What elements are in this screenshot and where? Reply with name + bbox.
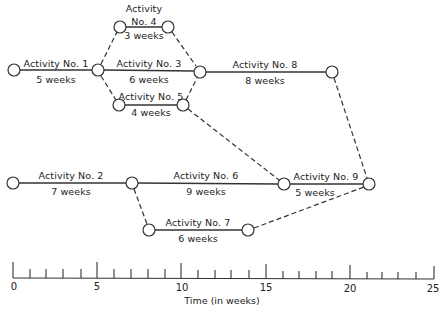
axis-title: Time (in weeks) xyxy=(184,295,259,306)
dependency-1-5 xyxy=(101,76,116,100)
activity-8-duration: 8 weeks xyxy=(245,75,285,86)
axis-tick-20: 20 xyxy=(344,283,357,294)
diagram-graphics xyxy=(0,0,442,311)
activity-1-duration: 5 weeks xyxy=(36,74,76,85)
activity-5-name: Activity No. 5 xyxy=(119,91,184,102)
node-end-1 xyxy=(92,64,104,76)
axis-tick-10: 10 xyxy=(176,282,189,293)
activity-1-name: Activity No. 1 xyxy=(24,58,89,69)
activity-5-duration: 4 weeks xyxy=(131,107,171,118)
activity-4-name-line2: No. 4 xyxy=(131,16,156,27)
axis-tick-15: 15 xyxy=(260,282,273,293)
dependency-8-9 xyxy=(334,78,367,178)
time-axis xyxy=(13,262,434,279)
activity-2-duration: 7 weeks xyxy=(51,186,91,197)
node-end-9 xyxy=(363,178,375,190)
node-end-2 xyxy=(126,177,138,189)
activity-8-name: Activity No. 8 xyxy=(233,59,298,70)
activity-3-duration: 6 weeks xyxy=(129,74,169,85)
axis-tick-5: 5 xyxy=(94,281,100,292)
axis-tick-0: 0 xyxy=(11,281,17,292)
activity-6-name: Activity No. 6 xyxy=(174,170,239,181)
dependency-2-7 xyxy=(134,189,147,224)
activity-4-duration: 3 weeks xyxy=(124,30,164,41)
dependency-1-4 xyxy=(101,32,117,64)
activity-3-name: Activity No. 3 xyxy=(117,58,182,69)
node-start-9 xyxy=(278,178,290,190)
network-diagram: Activity No. 1 5 weeks Activity No. 4 3 … xyxy=(0,0,442,311)
activity-4-name-line1: Activity xyxy=(126,3,162,14)
node-start-1 xyxy=(8,64,20,76)
node-end-7 xyxy=(242,224,254,236)
axis-tick-25: 25 xyxy=(427,283,440,294)
activity-3-line xyxy=(104,70,194,71)
activity-2-name: Activity No. 2 xyxy=(39,170,104,181)
activity-7-duration: 6 weeks xyxy=(178,233,218,244)
dependency-5-8 xyxy=(186,78,197,100)
activity-7-name: Activity No. 7 xyxy=(166,217,231,228)
node-start-7 xyxy=(143,224,155,236)
node-start-2 xyxy=(7,177,19,189)
node-end-8 xyxy=(326,66,338,78)
node-start-8 xyxy=(194,66,206,78)
activity-6-line xyxy=(138,183,278,184)
activity-6-duration: 9 weeks xyxy=(186,186,226,197)
activity-9-duration: 5 weeks xyxy=(295,187,335,198)
activity-9-name: Activity No. 9 xyxy=(294,171,359,182)
